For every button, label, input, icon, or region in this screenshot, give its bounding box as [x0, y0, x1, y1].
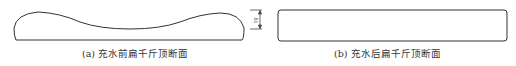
- jack-section-before: [14, 12, 244, 40]
- caption-b: (b) 充水后扁千斤顶断面: [334, 46, 441, 60]
- jack-section-after: [278, 10, 507, 41]
- caption-a: (a) 充水前扁千斤顶断面: [82, 46, 188, 60]
- dimension-label: δ1: [253, 18, 259, 24]
